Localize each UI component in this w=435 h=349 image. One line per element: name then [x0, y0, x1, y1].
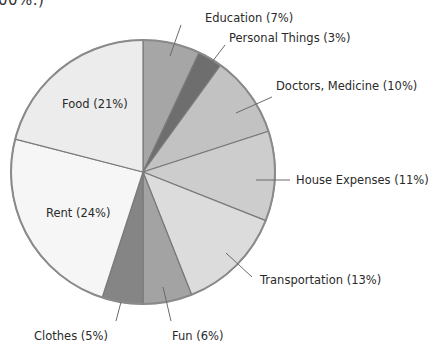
slice-label-fun: Fun (6%) [172, 329, 223, 343]
leader-line-clothes [116, 302, 121, 321]
slice-label-personal-things: Personal Things (3%) [229, 31, 351, 45]
slice-label-clothes: Clothes (5%) [34, 329, 108, 343]
slice-label-doctors-medicine: Doctors, Medicine (10%) [276, 79, 417, 93]
slice-label-transportation: Transportation (13%) [259, 273, 381, 287]
slice-label-food: Food (21%) [62, 97, 128, 111]
slice-label-rent: Rent (24%) [46, 206, 111, 220]
pie-chart: Education (7%)Personal Things (3%)Doctor… [0, 0, 435, 349]
header-text-fragment: 00%.) [0, 0, 44, 9]
slice-label-house-expenses: House Expenses (11%) [296, 173, 429, 187]
pie-chart-figure: 00%.) Education (7%)Personal Things (3%)… [0, 0, 435, 349]
slice-label-education: Education (7%) [205, 11, 293, 25]
pie-slices [11, 40, 275, 304]
leader-line-personal-things [212, 45, 225, 62]
